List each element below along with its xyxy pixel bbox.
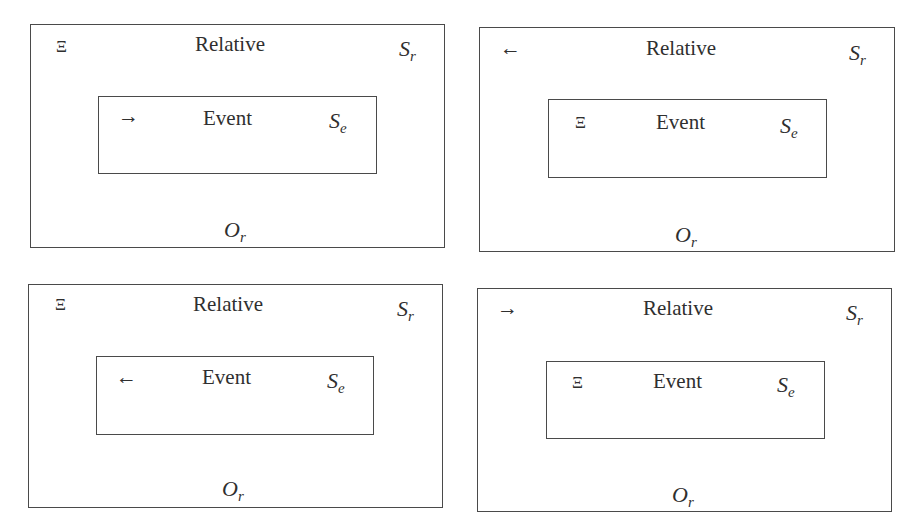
frame-subscript: e xyxy=(338,380,345,396)
frame-symbol: S xyxy=(846,300,857,325)
frame-subscript: e xyxy=(340,120,347,136)
observer-subscript: r xyxy=(688,494,694,510)
xi-icon: Ξ xyxy=(55,296,66,313)
event-frame-label-se: Se xyxy=(780,115,798,137)
frame-symbol: S xyxy=(777,372,788,397)
observer-label-or: Or xyxy=(675,224,697,246)
observer-subscript: r xyxy=(240,229,246,245)
frame-symbol: S xyxy=(329,108,340,133)
frame-subscript: r xyxy=(857,312,863,328)
frame-subscript: r xyxy=(860,52,866,68)
frame-symbol: S xyxy=(849,40,860,65)
relative-frame-title: Relative xyxy=(646,38,716,59)
event-frame-title: Event xyxy=(203,108,252,129)
xi-icon: Ξ xyxy=(56,38,67,55)
relative-frame-label-sr: Sr xyxy=(849,42,866,64)
relative-frame-label-sr: Sr xyxy=(846,302,863,324)
xi-icon: Ξ xyxy=(575,114,586,131)
frame-subscript: r xyxy=(410,48,416,64)
frame-symbol: S xyxy=(780,113,791,138)
event-frame-label-se: Se xyxy=(329,110,347,132)
relative-frame-label-sr: Sr xyxy=(397,298,414,320)
relative-frame-label-sr: Sr xyxy=(399,38,416,60)
arrow-left-icon: ← xyxy=(116,367,137,388)
relative-frame-title: Relative xyxy=(193,294,263,315)
observer-symbol: O xyxy=(222,476,238,501)
xi-icon: Ξ xyxy=(572,374,583,391)
frame-symbol: S xyxy=(399,36,410,61)
observer-label-or: Or xyxy=(222,478,244,500)
observer-label-or: Or xyxy=(224,219,246,241)
frame-subscript: e xyxy=(788,384,795,400)
frame-symbol: S xyxy=(397,296,408,321)
event-frame-title: Event xyxy=(653,371,702,392)
observer-symbol: O xyxy=(675,222,691,247)
observer-subscript: r xyxy=(238,488,244,504)
frame-subscript: r xyxy=(408,308,414,324)
arrow-left-icon: ← xyxy=(500,38,521,59)
relative-frame-title: Relative xyxy=(643,298,713,319)
observer-symbol: O xyxy=(224,217,240,242)
arrow-right-icon: → xyxy=(497,298,518,319)
observer-symbol: O xyxy=(672,482,688,507)
event-frame-title: Event xyxy=(202,367,251,388)
frame-subscript: e xyxy=(791,125,798,141)
observer-subscript: r xyxy=(691,234,697,250)
relative-frame-title: Relative xyxy=(195,34,265,55)
event-frame-label-se: Se xyxy=(777,374,795,396)
observer-label-or: Or xyxy=(672,484,694,506)
event-frame-label-se: Se xyxy=(327,370,345,392)
event-frame-title: Event xyxy=(656,112,705,133)
frame-symbol: S xyxy=(327,368,338,393)
arrow-right-icon: → xyxy=(118,106,139,127)
